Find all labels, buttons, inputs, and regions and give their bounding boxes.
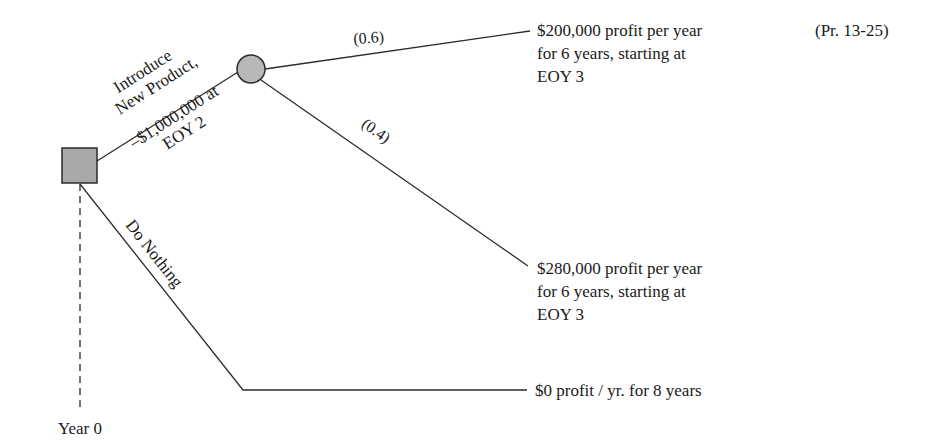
outcome-high-line2: for 6 years, starting at [537,44,686,63]
outcome-low-line2: for 6 years, starting at [537,282,686,301]
probability-low-label: (0.4) [358,115,393,147]
outcome-high-line1: $200,000 profit per year [537,21,703,40]
outcome-low-line3: EOY 3 [537,305,584,324]
outcome-nothing-label: $0 profit / yr. for 8 years [535,381,702,400]
chance-node-circle [237,55,265,83]
low-probability-branch-line [261,80,528,266]
outcome-low-line1: $280,000 profit per year [537,259,703,278]
outcome-high-line3: EOY 3 [537,67,584,86]
problem-reference: (Pr. 13-25) [815,21,889,40]
probability-high-label: (0.6) [353,28,385,48]
do-nothing-branch-line [80,184,527,390]
year-0-label: Year 0 [58,419,102,438]
decision-tree-diagram: Introduce New Product, –$1,000,000 at EO… [0,0,951,448]
high-probability-branch-line [265,31,530,69]
do-nothing-label: Do Nothing [122,216,187,291]
decision-node-square [62,148,97,183]
